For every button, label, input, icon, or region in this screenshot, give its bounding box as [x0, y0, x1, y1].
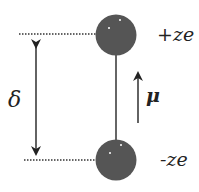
- sphere-highlight-icon: [109, 152, 111, 154]
- separation-label: δ: [8, 89, 21, 111]
- positive-charge-sphere: [96, 15, 137, 56]
- negative-charge-label: -ze: [160, 150, 188, 169]
- dipole-diagram: +ze -ze δ μ: [0, 0, 199, 192]
- dipole-moment-label: μ: [146, 86, 160, 105]
- positive-charge-label: +ze: [157, 25, 194, 44]
- sphere-highlight-icon: [119, 19, 121, 21]
- sphere-highlight-icon: [108, 27, 110, 29]
- sphere-highlight-icon: [120, 144, 122, 146]
- negative-charge-sphere: [96, 140, 137, 181]
